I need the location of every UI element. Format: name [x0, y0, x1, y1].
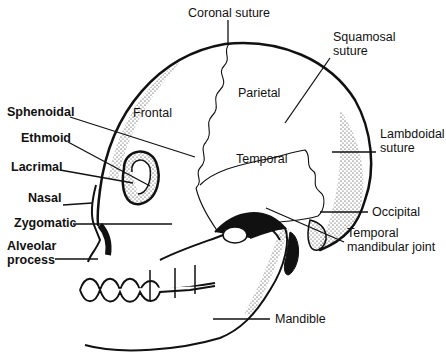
orbit [123, 152, 159, 205]
label-occipital: Occipital [372, 205, 420, 219]
label-temporal: Temporal [236, 152, 287, 166]
label-mandible: Mandible [275, 312, 326, 326]
label-sphenoidal: Sphenoidal [7, 105, 74, 119]
label-lacrimal: Lacrimal [11, 160, 62, 174]
label-coronal-suture: Coronal suture [188, 6, 270, 20]
label-squamosal-suture: Squamosal suture [333, 30, 396, 58]
label-lambdoidal-suture: Lambdoidal suture [380, 127, 445, 155]
label-parietal: Parietal [238, 86, 280, 100]
sutures [196, 44, 324, 232]
jaw [85, 213, 326, 350]
teeth [80, 265, 215, 302]
label-frontal: Frontal [133, 106, 172, 120]
label-alveolar-process: Alveolar process [7, 239, 56, 267]
label-zygomatic: Zygomatic [14, 216, 77, 230]
label-nasal: Nasal [28, 191, 61, 205]
label-temporal-mandibular-joint: Temporal mandibular joint [347, 226, 435, 254]
label-ethmoid: Ethmoid [21, 131, 71, 145]
